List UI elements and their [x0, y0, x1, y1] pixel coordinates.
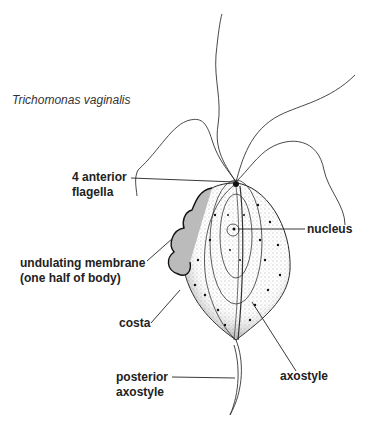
label-line: 4 anterior	[72, 170, 127, 185]
label-undulating-membrane: undulating membrane (one half of body)	[20, 256, 145, 286]
label-axostyle: axostyle	[280, 369, 328, 384]
label-line: axostyle	[116, 385, 168, 400]
organism-title: Trichomonas vaginalis	[12, 93, 131, 107]
label-line: posterior	[116, 370, 168, 385]
label-line: undulating membrane	[20, 256, 145, 271]
label-line: (one half of body)	[20, 271, 145, 286]
label-line: flagella	[72, 185, 127, 200]
label-anterior-flagella: 4 anterior flagella	[72, 170, 127, 200]
label-nucleus: nucleus	[307, 222, 352, 237]
label-posterior-axostyle: posterior axostyle	[116, 370, 168, 400]
label-costa: costa	[119, 316, 150, 331]
organism-illustration	[0, 0, 366, 430]
